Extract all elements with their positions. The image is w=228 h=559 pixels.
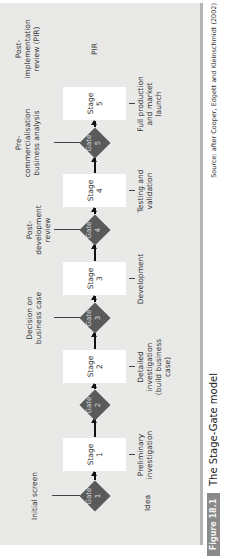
figure-caption: Figure 18.1 The Stage-Gate model Source:…: [206, 3, 222, 556]
stage-4-connector: [129, 190, 135, 191]
figure-source: Source: after Cooper, Edgett and Kleinsc…: [208, 3, 220, 178]
stage-2-box: Stage2: [63, 350, 126, 383]
stage-2-connector: [129, 366, 135, 367]
stage-5-description: Full production and market launch: [136, 72, 163, 136]
arrow-stage3-gate4: [94, 245, 96, 261]
stage-5-box: Stage5: [63, 87, 126, 120]
gate-1-connector: [52, 495, 80, 496]
arrow-gate3-stage3: [94, 296, 96, 302]
stage-5-connector: [129, 103, 135, 104]
gate-5-review-label: Pre-commercialisation business analysis: [14, 105, 41, 181]
stage-3-description: Development: [136, 247, 145, 311]
gate-5-connector: [54, 142, 80, 143]
stage-4-box: Stage4: [63, 174, 126, 207]
figure-title: The Stage-Gate model: [206, 373, 221, 486]
arrow-gate2-stage2: [94, 384, 96, 389]
arrow-gate5-stage5: [94, 121, 96, 127]
stage-2-description: Detailed investigation (build business c…: [136, 335, 172, 399]
gate-1-text: Gate1: [85, 481, 103, 511]
gate-4-text: Gate4: [85, 215, 103, 245]
stage-3-connector: [129, 278, 135, 279]
pir-label: PIR: [90, 17, 99, 81]
arrow-gate1-stage1: [94, 472, 96, 480]
stage-4-description: Testing and validation: [136, 159, 154, 223]
gate-3-text: Gate3: [85, 303, 103, 333]
gate-5-text: Gate5: [85, 128, 103, 158]
gate-4-connector: [54, 229, 80, 230]
gate-2-text: Gate2: [85, 390, 103, 420]
pir-review-label: Post-implementation review (PIR): [14, 11, 41, 87]
stage-gate-figure: Idea Initial screen Gate1 Stage1 Prelimi…: [0, 0, 228, 559]
stage-1-description: Preliminary investigation: [136, 423, 154, 487]
stage-3-box: Stage3: [63, 262, 126, 295]
figure-number-badge: Figure 18.1: [207, 493, 220, 556]
arrow-stage4-gate5: [94, 158, 96, 173]
gate-3-connector: [54, 317, 80, 318]
stage-1-box: Stage1: [63, 438, 126, 471]
arrow-gate4-stage4: [94, 208, 96, 214]
arrow-stage2-gate3: [94, 333, 96, 349]
arrow-stage1-gate2: [94, 419, 96, 437]
gate-1-review-label: Initial screen: [30, 464, 39, 528]
stage-1-connector: [129, 454, 135, 455]
gate-3-review-label: Decision on business case: [25, 286, 43, 350]
gate-4-review-label: Post-development review: [25, 198, 52, 262]
